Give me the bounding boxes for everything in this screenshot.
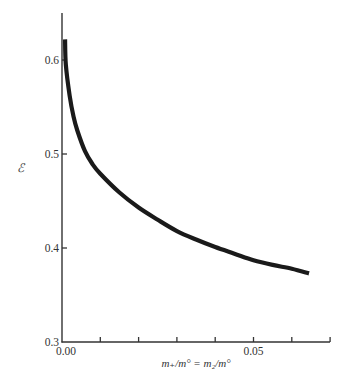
tick-labels: 0.30.40.50.60.000.05 [45, 54, 264, 357]
y-tick-label: 0.6 [45, 54, 60, 66]
y-tick-label: 0.5 [45, 148, 60, 160]
x-tick-label: 0.00 [56, 345, 76, 357]
y-tick-label: 0.4 [45, 242, 60, 254]
chart: 0.30.40.50.60.000.05 m₊/m° = m₂/m° ℰ [0, 0, 346, 386]
data-curve [65, 39, 309, 273]
x-axis-label: m₊/m° = m₂/m° [161, 357, 231, 369]
x-tick-label: 0.05 [243, 345, 263, 357]
y-axis-label: ℰ [17, 161, 26, 175]
axis-ticks [62, 60, 330, 342]
